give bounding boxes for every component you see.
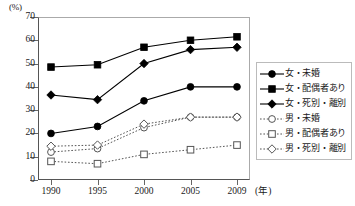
data-point bbox=[187, 146, 194, 153]
legend-item-label: 男・配偶者あり bbox=[285, 128, 346, 139]
legend-item-label: 女・配偶者あり bbox=[285, 83, 346, 94]
legend-item-label: 男・死別・離別 bbox=[285, 143, 346, 154]
data-point bbox=[48, 158, 55, 165]
data-point bbox=[234, 83, 241, 90]
legend-marker-icon bbox=[259, 97, 285, 111]
legend-marker-icon bbox=[259, 142, 285, 156]
series-5 bbox=[48, 142, 241, 167]
legend-item-2: 女・配偶者あり bbox=[259, 81, 349, 96]
data-point bbox=[233, 113, 241, 121]
data-point bbox=[47, 142, 55, 150]
legend-item-5: 男・配偶者あり bbox=[259, 126, 349, 141]
legend-marker-icon bbox=[259, 67, 285, 81]
legend-item-1: 女・未婚 bbox=[259, 66, 349, 81]
legend-item-label: 女・死別・離別 bbox=[285, 98, 346, 109]
data-point bbox=[94, 61, 101, 68]
data-point bbox=[94, 123, 101, 130]
legend-marker-icon bbox=[259, 112, 285, 126]
legend-item-6: 男・死別・離別 bbox=[259, 141, 349, 156]
legend-item-label: 男・未婚 bbox=[285, 113, 320, 124]
legend-item-4: 男・未婚 bbox=[259, 111, 349, 126]
data-point bbox=[94, 160, 101, 167]
data-point bbox=[141, 97, 148, 104]
series-6 bbox=[47, 113, 241, 151]
series-3 bbox=[47, 43, 241, 104]
data-point bbox=[187, 37, 194, 44]
data-point bbox=[234, 33, 241, 40]
data-point bbox=[186, 113, 194, 121]
data-point bbox=[48, 130, 55, 137]
data-point bbox=[141, 151, 148, 158]
data-point bbox=[234, 142, 241, 149]
legend-marker-icon bbox=[259, 82, 285, 96]
data-point bbox=[186, 45, 194, 53]
legend-marker-icon bbox=[259, 127, 285, 141]
legend-item-3: 女・死別・離別 bbox=[259, 96, 349, 111]
chart-container: (%) 70605040302010019901995200020052009(… bbox=[0, 0, 355, 206]
data-point bbox=[47, 91, 55, 99]
chart-legend: 女・未婚女・配偶者あり女・死別・離別男・未婚男・配偶者あり男・死別・離別 bbox=[256, 62, 352, 160]
data-point bbox=[187, 83, 194, 90]
data-point bbox=[233, 43, 241, 51]
data-point bbox=[48, 64, 55, 71]
legend-item-label: 女・未婚 bbox=[285, 68, 320, 79]
data-point bbox=[141, 44, 148, 51]
